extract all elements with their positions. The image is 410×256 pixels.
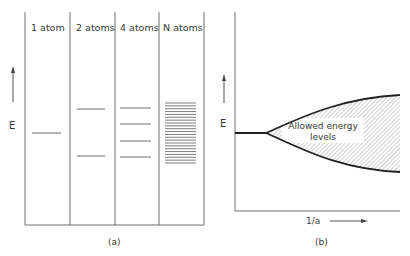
column-header-1-atom: 1 atom [31, 22, 65, 33]
n-atoms-energy-band [165, 103, 196, 163]
energy-arrow-icon [11, 66, 15, 102]
panel-a-caption: (a) [108, 237, 121, 247]
energy-levels [32, 108, 151, 157]
x-axis-label: 1/a [306, 216, 320, 226]
panel-a-energy-label: E [9, 120, 15, 131]
column-header-2-atoms: 2 atoms [76, 22, 115, 33]
panel-a: E 1 atom 2 atoms 4 atoms N atoms (a) [9, 12, 204, 247]
column-header-n-atoms: N atoms [163, 22, 203, 33]
energy-level-diagram: E 1 atom 2 atoms 4 atoms N atoms (a) [0, 0, 410, 256]
column-header-4-atoms: 4 atoms [120, 22, 159, 33]
region-label-line1: Allowed energy [288, 121, 358, 131]
region-label-line2: levels [310, 132, 336, 142]
panel-b-energy-label: E [220, 118, 226, 129]
column-dividers [25, 12, 204, 225]
x-arrow-icon [330, 219, 368, 223]
panel-b-caption: (b) [315, 237, 328, 247]
panel-b: E Allowed energy levels 1/a (b) [220, 12, 400, 247]
energy-arrow-icon [222, 74, 226, 103]
